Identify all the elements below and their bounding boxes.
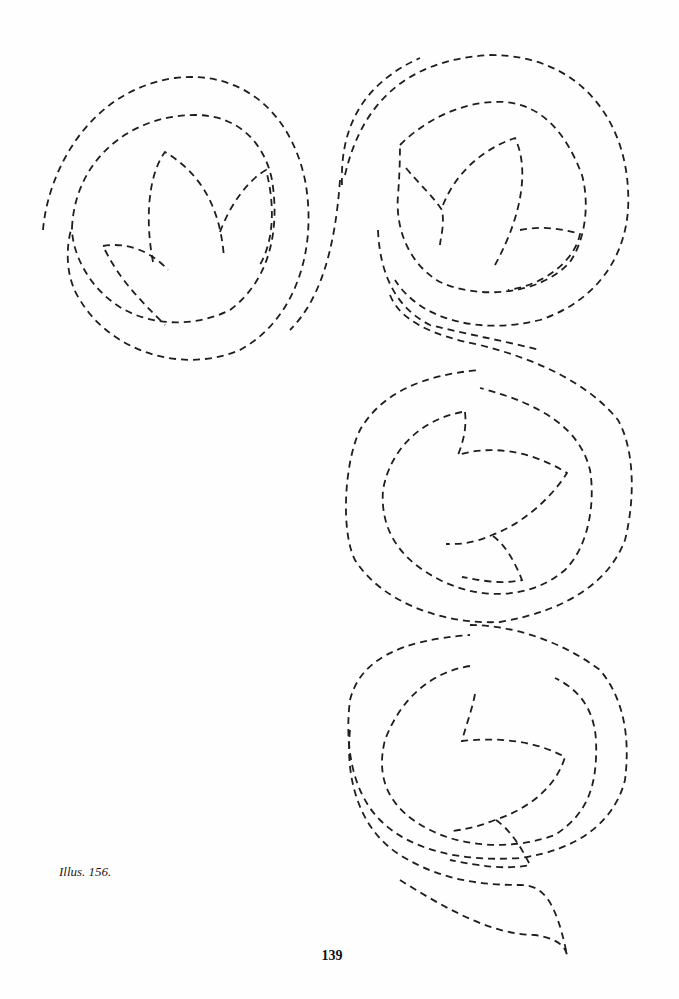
page-number: 139 xyxy=(312,948,352,964)
top-left-left-leaf xyxy=(103,245,168,325)
top-right-center-leaf xyxy=(443,138,522,265)
quilting-pattern-diagram xyxy=(0,0,679,999)
top-left-inner-ring xyxy=(72,115,275,322)
top-left-right-leaf xyxy=(220,170,272,268)
top-right-left-leaf xyxy=(406,168,443,245)
book-page: Illus. 156. 139 xyxy=(0,0,679,999)
bottom-inner-ring xyxy=(382,666,596,845)
bottom-tail xyxy=(349,730,567,955)
vine-to-bottom xyxy=(348,625,626,859)
middle-inner-ring xyxy=(383,388,592,594)
bottom-tail-end xyxy=(400,880,567,955)
top-right-inner-ring xyxy=(398,102,586,292)
vine-to-middle xyxy=(346,295,632,622)
illustration-caption: Illus. 156. xyxy=(59,864,111,880)
middle-upper-leaf xyxy=(446,412,567,544)
bottom-upper-leaf xyxy=(452,694,565,831)
top-left-outer-ring xyxy=(43,77,309,360)
top-left-center-leaf xyxy=(149,152,224,262)
